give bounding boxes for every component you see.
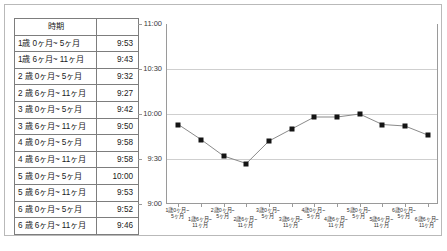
- x-tick-mark: [246, 203, 247, 207]
- x-tick-label: 6歳6ヶ月~11ヶ月: [415, 217, 439, 228]
- cell-period: 6 歳 0ヶ月~ 5ヶ月: [15, 201, 97, 218]
- content-frame: 時期 1歳 0ヶ月~ 5ヶ月9:531歳 6ヶ月~ 11ヶ月9:432 歳 0ヶ…: [4, 4, 442, 236]
- table-row: 5 歳 0ヶ月~ 5ヶ月10:00: [15, 168, 139, 185]
- data-point: [267, 139, 272, 144]
- cell-value: 9:58: [97, 135, 139, 152]
- cell-value: 9:46: [97, 218, 139, 235]
- cell-period: 6 歳 6ヶ月~ 11ヶ月: [15, 218, 97, 235]
- table-row: 2 歳 6ヶ月~ 11ヶ月9:27: [15, 85, 139, 102]
- table-header-row: 時期: [15, 19, 139, 36]
- screenshot-root: 時期 1歳 0ヶ月~ 5ヶ月9:531歳 6ヶ月~ 11ヶ月9:432 歳 0ヶ…: [0, 0, 447, 251]
- line-chart: 11:0010:3010:009:309:00 1歳0ヶ月~5ヶ月1歳6ヶ月~1…: [142, 17, 444, 241]
- data-point: [176, 122, 181, 127]
- data-point: [335, 115, 340, 120]
- x-tick-mark: [428, 203, 429, 207]
- table-row: 3 歳 6ヶ月~ 11ヶ月9:50: [15, 118, 139, 135]
- column-header-period: 時期: [15, 19, 97, 36]
- cell-period: 2 歳 0ヶ月~ 5ヶ月: [15, 68, 97, 85]
- data-point: [425, 133, 430, 138]
- table-row: 6 歳 0ヶ月~ 5ヶ月9:52: [15, 201, 139, 218]
- x-tick-label: 5歳0ヶ月~5ヶ月: [347, 208, 371, 219]
- x-tick-label: 5歳6ヶ月~11ヶ月: [369, 217, 393, 228]
- table-row: 3 歳 0ヶ月~ 5ヶ月9:42: [15, 101, 139, 118]
- y-tick-label: 10:30: [140, 65, 162, 73]
- table-body: 1歳 0ヶ月~ 5ヶ月9:531歳 6ヶ月~ 11ヶ月9:432 歳 0ヶ月~ …: [15, 35, 139, 234]
- data-point: [289, 127, 294, 132]
- period-table-container: 時期 1歳 0ヶ月~ 5ヶ月9:531歳 6ヶ月~ 11ヶ月9:432 歳 0ヶ…: [14, 18, 138, 235]
- cell-value: 9:43: [97, 52, 139, 69]
- column-header-value: [97, 19, 139, 36]
- x-tick-label: 6歳0ヶ月~5ヶ月: [392, 208, 416, 219]
- data-point: [403, 124, 408, 129]
- cell-period: 5 歳 6ヶ月~ 11ヶ月: [15, 184, 97, 201]
- series-line: [167, 24, 439, 204]
- x-tick-label: 4歳6ヶ月~11ヶ月: [324, 217, 348, 228]
- y-tick-label: 9:30: [140, 155, 162, 163]
- y-tick-label: 11:00: [140, 20, 162, 28]
- period-table: 時期 1歳 0ヶ月~ 5ヶ月9:531歳 6ヶ月~ 11ヶ月9:432 歳 0ヶ…: [14, 18, 139, 235]
- cell-value: 9:42: [97, 101, 139, 118]
- cell-period: 1歳 6ヶ月~ 11ヶ月: [15, 52, 97, 69]
- table-row: 1歳 0ヶ月~ 5ヶ月9:53: [15, 35, 139, 52]
- cell-period: 3 歳 6ヶ月~ 11ヶ月: [15, 118, 97, 135]
- x-tick-label: 2歳0ヶ月~5ヶ月: [211, 208, 235, 219]
- data-point: [312, 115, 317, 120]
- cell-value: 9:53: [97, 35, 139, 52]
- data-point: [244, 161, 249, 166]
- x-tick-mark: [201, 203, 202, 207]
- cell-period: 5 歳 0ヶ月~ 5ヶ月: [15, 168, 97, 185]
- table-row: 6 歳 6ヶ月~ 11ヶ月9:46: [15, 218, 139, 235]
- data-point: [380, 122, 385, 127]
- cell-period: 4 歳 6ヶ月~ 11ヶ月: [15, 151, 97, 168]
- cell-value: 9:52: [97, 201, 139, 218]
- data-point: [357, 112, 362, 117]
- cell-value: 9:58: [97, 151, 139, 168]
- cell-value: 10:00: [97, 168, 139, 185]
- cell-period: 4 歳 0ヶ月~ 5ヶ月: [15, 135, 97, 152]
- table-row: 5 歳 6ヶ月~ 11ヶ月9:53: [15, 184, 139, 201]
- y-tick-label: 10:00: [140, 110, 162, 118]
- x-tick-mark: [337, 203, 338, 207]
- table-row: 4 歳 0ヶ月~ 5ヶ月9:58: [15, 135, 139, 152]
- table-head: 時期: [15, 19, 139, 36]
- data-point: [221, 154, 226, 159]
- cell-period: 3 歳 0ヶ月~ 5ヶ月: [15, 101, 97, 118]
- x-tick-label: 2歳6ヶ月~11ヶ月: [233, 217, 257, 228]
- cell-period: 1歳 0ヶ月~ 5ヶ月: [15, 35, 97, 52]
- cell-period: 2 歳 6ヶ月~ 11ヶ月: [15, 85, 97, 102]
- table-row: 2 歳 0ヶ月~ 5ヶ月9:32: [15, 68, 139, 85]
- plot-area: [166, 24, 438, 204]
- cell-value: 9:53: [97, 184, 139, 201]
- x-tick-label: 3歳6ヶ月~11ヶ月: [279, 217, 303, 228]
- data-point: [199, 137, 204, 142]
- cell-value: 9:50: [97, 118, 139, 135]
- table-row: 4 歳 6ヶ月~ 11ヶ月9:58: [15, 151, 139, 168]
- cell-value: 9:32: [97, 68, 139, 85]
- x-tick-label: 4歳0ヶ月~5ヶ月: [301, 208, 325, 219]
- x-tick-mark: [292, 203, 293, 207]
- y-tick-label: 9:00: [140, 200, 162, 208]
- cell-value: 9:27: [97, 85, 139, 102]
- x-tick-label: 3歳0ヶ月~5ヶ月: [256, 208, 280, 219]
- table-row: 1歳 6ヶ月~ 11ヶ月9:43: [15, 52, 139, 69]
- x-tick-label: 1歳6ヶ月~11ヶ月: [188, 217, 212, 228]
- x-tick-label: 1歳0ヶ月~5ヶ月: [165, 208, 189, 219]
- x-tick-mark: [382, 203, 383, 207]
